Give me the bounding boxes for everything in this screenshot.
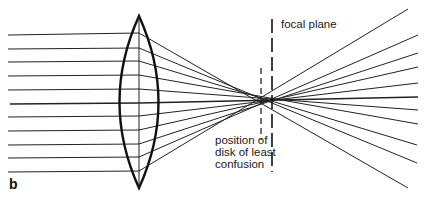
disk-label-line2: disk of least	[215, 146, 276, 158]
panel-label: b	[9, 176, 18, 192]
refracted-rays	[139, 9, 418, 188]
focal-plane-label: focal plane	[281, 18, 337, 30]
disk-label-line1: position of	[215, 134, 267, 146]
lens-diagram	[0, 0, 425, 202]
disk-label-line3: confusion	[215, 158, 264, 170]
